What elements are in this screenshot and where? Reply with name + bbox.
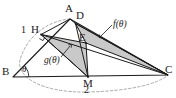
label-length-two: 2 [84,85,89,95]
segment-A-H [41,19,70,35]
vertex-dot-H [40,34,42,36]
label-point-D: D [76,10,84,21]
leader-line-f-theta [101,25,112,36]
label-point-E: E [79,32,86,43]
label-point-B: B [2,66,9,77]
label-angle-theta: θ [22,65,26,74]
label-length-one: 1 [21,25,26,35]
vertex-dot-D [75,23,77,25]
label-point-A: A [65,3,73,14]
label-function-f-theta: f(θ) [113,20,127,30]
segment-D-C [76,24,169,76]
geometry-figure-canvas: A D H E B M C 1 2 θ f(θ) g(θ) [0,0,176,98]
label-point-C: C [165,64,172,75]
label-function-g-theta: g(θ) [44,56,60,66]
label-point-H: H [31,24,39,35]
